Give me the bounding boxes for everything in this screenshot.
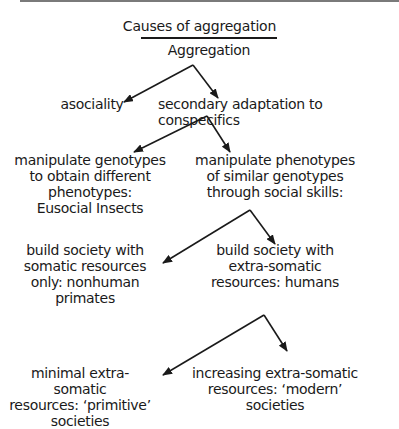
arrow-phenotypes-split: [163, 210, 275, 263]
arrow-to-extra-somatic-icon: [250, 210, 275, 244]
arrow-to-modern-icon: [264, 315, 287, 351]
arrow-to-primitive-icon: [163, 315, 264, 375]
arrow-aggregation-split: [124, 65, 218, 102]
arrow-to-asociality-icon: [124, 65, 193, 102]
arrow-secondary-split: [134, 116, 230, 152]
arrow-to-genotypes-icon: [134, 116, 207, 152]
arrow-humans-split: [163, 315, 287, 375]
arrow-to-phenotypes-icon: [207, 116, 230, 152]
arrow-to-somatic-icon: [163, 210, 250, 263]
arrow-layer: [0, 0, 399, 429]
arrow-to-secondary-adaptation-icon: [193, 65, 218, 98]
